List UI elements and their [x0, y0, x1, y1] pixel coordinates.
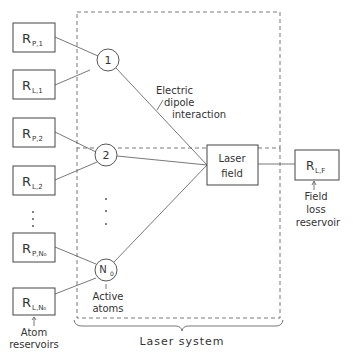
reservoir-l2: R L,2	[13, 166, 55, 195]
annotation-reservoirs: reservoirs	[9, 339, 59, 350]
link-atomn0-field	[114, 165, 207, 262]
link-atom2-field	[117, 156, 207, 165]
svg-text:R: R	[306, 159, 314, 173]
link-p1-atom1	[55, 37, 98, 56]
svg-text:P,N₀: P,N₀	[32, 250, 47, 258]
svg-text:N: N	[99, 264, 106, 275]
atom-reservoir-arrow	[32, 317, 36, 326]
link-p2-atom2	[55, 132, 96, 152]
field-loss-box: R L,F	[295, 150, 339, 180]
annotation-reservoir: reservoir	[296, 217, 341, 228]
link-l1-atom1	[55, 70, 90, 85]
laser-system-label: Laser system	[139, 335, 224, 348]
atom-2: 2	[95, 144, 117, 166]
svg-text:P,1: P,1	[32, 40, 43, 48]
laser-system-boundary	[77, 12, 280, 148]
reservoir-l1: R L,1	[13, 70, 55, 99]
svg-text:1: 1	[105, 54, 112, 67]
svg-text:field: field	[221, 168, 243, 179]
atom-n0: N 0	[95, 259, 117, 281]
svg-text:L,2: L,2	[32, 183, 43, 191]
annotation-dipole: dipole	[164, 97, 195, 108]
atom-ellipsis	[105, 198, 107, 225]
annotation-electric: Electric	[156, 85, 193, 96]
annotation-atoms: atoms	[92, 303, 123, 314]
svg-text:R: R	[22, 241, 31, 256]
reservoir-ellipsis	[32, 211, 34, 227]
reservoir-p2: R P,2	[13, 118, 55, 147]
svg-text:R: R	[22, 78, 31, 93]
svg-text:R: R	[22, 174, 31, 189]
link-ln0-atomn0	[55, 278, 96, 294]
svg-text:2: 2	[103, 149, 110, 162]
svg-text:0: 0	[110, 270, 114, 277]
svg-text:Laser: Laser	[218, 153, 246, 164]
laser-field-box: Laser field	[207, 145, 258, 185]
annotation-pointer	[157, 100, 163, 110]
reservoir-p1: R P,1	[13, 23, 55, 52]
link-l2-atom2	[55, 162, 97, 180]
reservoir-pn0: R P,N₀	[13, 233, 55, 262]
annotation-interaction: interaction	[172, 109, 226, 120]
svg-text:R: R	[22, 295, 31, 310]
atom-1: 1	[97, 49, 119, 71]
laser-model-diagram: Laser system R P,1 R L,1 R P,2 R L,2 R P…	[0, 0, 353, 352]
link-pn0-atomn0	[55, 247, 96, 264]
field-loss-arrow	[312, 181, 316, 190]
svg-text:L,1: L,1	[32, 87, 43, 95]
annotation-loss: loss	[306, 204, 325, 215]
svg-text:P,2: P,2	[32, 135, 43, 143]
svg-text:R: R	[22, 126, 31, 141]
svg-text:L,F: L,F	[315, 167, 325, 175]
svg-text:L,N₀: L,N₀	[32, 304, 46, 312]
reservoir-ln0: R L,N₀	[13, 288, 55, 315]
annotation-field: Field	[304, 191, 327, 202]
svg-text:R: R	[22, 31, 31, 46]
laser-system-brace	[74, 320, 283, 331]
annotation-active: Active	[93, 291, 124, 302]
annotation-atom: Atom	[21, 327, 47, 338]
